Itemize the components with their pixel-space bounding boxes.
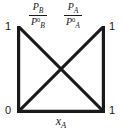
curve-label-pa: PA P0A [64, 2, 82, 29]
fraction-pa-numerator: PA [64, 2, 82, 16]
y-axis-tick-top: 1 [5, 21, 11, 32]
fraction-pb-numerator: PB [29, 2, 47, 16]
pb-den-subscript: B [40, 21, 45, 30]
fraction-pa: PA P0A [64, 2, 82, 29]
plot-lines-svg [17, 26, 105, 113]
fraction-pb: PB P0B [29, 2, 47, 29]
fraction-pa-denominator: P0A [64, 16, 82, 29]
pa-den-subscript: A [75, 21, 80, 30]
fraction-pb-denominator: P0B [29, 16, 47, 29]
right-axis-tick-top: 1 [109, 21, 115, 32]
raoults-law-figure: 1 0 1 1 xA PB P0B PA P0A [0, 0, 122, 137]
x-axis-label-subscript: A [61, 120, 66, 130]
curve-label-pb: PB P0B [29, 2, 47, 29]
x-axis-label: xA [0, 114, 122, 132]
pa-num-subscript: A [74, 6, 79, 15]
plot-area [17, 26, 105, 113]
pb-num-subscript: B [39, 6, 44, 15]
